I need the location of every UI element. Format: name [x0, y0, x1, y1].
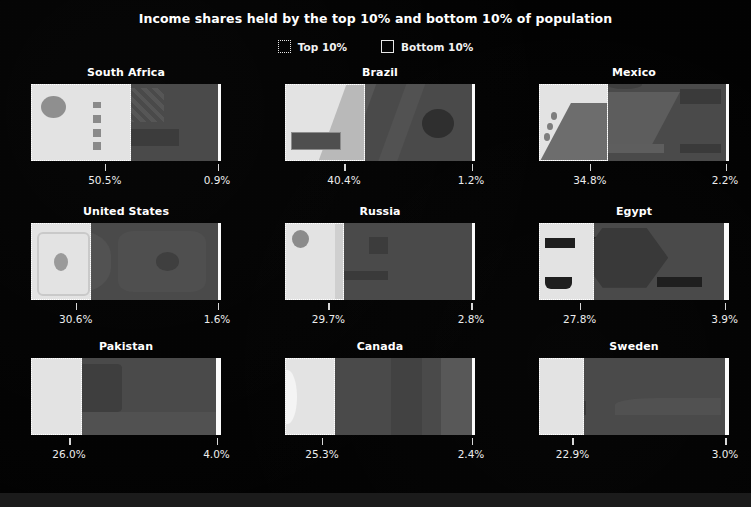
panel-axis [285, 164, 475, 173]
top-value-label: 34.8% [573, 174, 606, 186]
bottom-ten-percent-bar [724, 223, 729, 300]
bottom-ten-percent-bar [218, 84, 221, 161]
bottom-value-label: 1.6% [204, 313, 231, 325]
bottom-value-label: 4.0% [203, 448, 230, 460]
tick-bottom [217, 438, 219, 445]
panel-axis [285, 438, 475, 447]
top-ten-percent-bar [285, 358, 335, 435]
top-ten-percent-bar [539, 358, 584, 435]
panel-plot [31, 84, 221, 161]
bottom-value-label: 3.0% [712, 448, 739, 460]
country-title: Russia [265, 205, 495, 218]
panel-axis [539, 438, 729, 447]
country-title: Egypt [519, 205, 749, 218]
country-title: Canada [265, 340, 495, 353]
tick-top [76, 303, 78, 310]
footer-band [0, 493, 751, 507]
bottom-ten-percent-bar [216, 358, 221, 435]
panel-plot [285, 84, 475, 161]
top-value-label: 30.6% [59, 313, 92, 325]
top-ten-percent-bar [539, 84, 608, 161]
panel-axis [285, 303, 475, 312]
panel-axis [31, 438, 221, 447]
top-value-label: 26.0% [52, 448, 85, 460]
panel-value-labels: 30.6%1.6% [31, 313, 221, 327]
country-title: United States [11, 205, 241, 218]
top-ten-percent-bar [285, 223, 344, 300]
country-panel: Russia29.7%2.8% [265, 205, 495, 327]
outline-square-icon [381, 40, 394, 53]
top-value-label: 50.5% [88, 174, 121, 186]
bottom-value-label: 0.9% [204, 174, 231, 186]
country-title: South Africa [11, 66, 241, 79]
top-ten-percent-bar [31, 223, 91, 300]
panel-axis [31, 164, 221, 173]
panel-artwork-top [32, 85, 130, 160]
top-value-label: 27.8% [563, 313, 596, 325]
top-ten-percent-bar [31, 84, 131, 161]
panel-artwork-top [32, 359, 81, 434]
tick-top [322, 438, 324, 445]
legend-item-bottom: Bottom 10% [381, 40, 473, 53]
panel-grid: South Africa50.5%0.9%Brazil40.4%1.2%Mexi… [0, 66, 751, 486]
tick-bottom [726, 164, 728, 171]
bottom-ten-percent-bar [726, 84, 729, 161]
tick-bottom [218, 303, 220, 310]
country-panel: Sweden22.9%3.0% [519, 340, 749, 462]
panel-artwork-top [540, 224, 593, 299]
tick-top [69, 438, 71, 445]
panel-axis [31, 303, 221, 312]
bottom-value-label: 2.2% [712, 174, 739, 186]
top-value-label: 29.7% [312, 313, 345, 325]
panel-plot [31, 223, 221, 300]
panel-axis [539, 164, 729, 173]
country-title: Pakistan [11, 340, 241, 353]
legend-label-top: Top 10% [298, 41, 347, 53]
panel-artwork-top [286, 359, 334, 434]
tick-bottom [472, 164, 474, 171]
bottom-ten-percent-bar [218, 223, 221, 300]
country-panel: South Africa50.5%0.9% [11, 66, 241, 188]
tick-top [572, 438, 574, 445]
top-value-label: 22.9% [556, 448, 589, 460]
panel-plot [539, 358, 729, 435]
bottom-value-label: 3.9% [711, 313, 738, 325]
tick-top [590, 164, 592, 171]
panel-plot [31, 358, 221, 435]
legend: Top 10% Bottom 10% [0, 40, 751, 53]
panel-value-labels: 50.5%0.9% [31, 174, 221, 188]
panel-value-labels: 22.9%3.0% [539, 448, 729, 462]
panel-artwork-top [286, 224, 343, 299]
country-title: Mexico [519, 66, 749, 79]
top-ten-percent-bar [31, 358, 82, 435]
bottom-ten-percent-bar [472, 84, 475, 161]
panel-value-labels: 40.4%1.2% [285, 174, 475, 188]
bottom-ten-percent-bar [472, 223, 476, 300]
panel-value-labels: 29.7%2.8% [285, 313, 475, 327]
tick-bottom [725, 303, 727, 310]
panel-value-labels: 26.0%4.0% [31, 448, 221, 462]
country-panel: United States30.6%1.6% [11, 205, 241, 327]
country-panel: Egypt27.8%3.9% [519, 205, 749, 327]
bottom-ten-percent-bar [472, 358, 475, 435]
top-value-label: 40.4% [327, 174, 360, 186]
panel-axis [539, 303, 729, 312]
page-title: Income shares held by the top 10% and bo… [0, 11, 751, 26]
tick-bottom [218, 164, 220, 171]
bottom-value-label: 2.8% [458, 313, 485, 325]
country-title: Sweden [519, 340, 749, 353]
chart-canvas: Income shares held by the top 10% and bo… [0, 0, 751, 507]
panel-artwork-top [32, 224, 90, 299]
panel-value-labels: 27.8%3.9% [539, 313, 729, 327]
top-ten-percent-bar [285, 84, 365, 161]
country-panel: Brazil40.4%1.2% [265, 66, 495, 188]
panel-value-labels: 25.3%2.4% [285, 448, 475, 462]
tick-bottom [725, 438, 727, 445]
panel-value-labels: 34.8%2.2% [539, 174, 729, 188]
panel-plot [285, 223, 475, 300]
country-panel: Mexico34.8%2.2% [519, 66, 749, 188]
bottom-value-label: 2.4% [458, 448, 485, 460]
country-panel: Pakistan26.0%4.0% [11, 340, 241, 462]
dotted-square-icon [278, 40, 291, 53]
tick-top [580, 303, 582, 310]
